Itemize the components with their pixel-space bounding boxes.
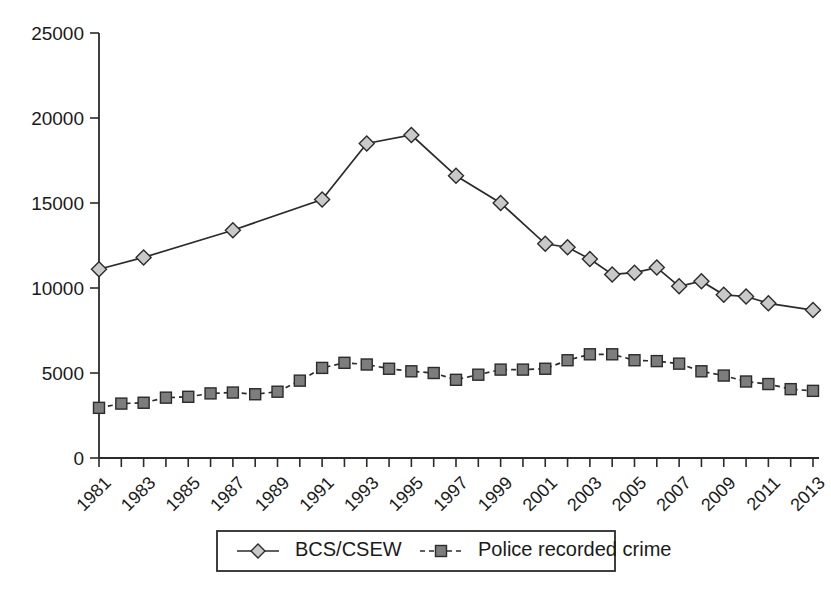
y-axis-tick-label: 0 [73,448,84,469]
data-point-marker [517,364,528,375]
chart-legend: BCS/CSEWPolice recorded crime [217,531,671,571]
y-axis-tick-label: 10000 [31,278,84,299]
data-point-marker [94,402,105,413]
data-point-marker [495,364,506,375]
data-point-marker [651,356,662,367]
legend-label-bcs-csew: BCS/CSEW [295,538,402,560]
data-point-marker [183,391,194,402]
data-point-marker [361,359,372,370]
data-point-marker [116,398,127,409]
y-axis-tick-label: 5000 [42,363,84,384]
data-point-marker [250,389,261,400]
data-point-marker [138,397,149,408]
data-point-marker [205,388,216,399]
data-point-marker [741,376,752,387]
data-point-marker [160,392,171,403]
data-point-marker [428,368,439,379]
square-marker-icon [436,546,447,557]
data-point-marker [674,358,685,369]
data-point-marker [607,349,618,360]
data-point-marker [718,370,729,381]
data-point-marker [785,384,796,395]
y-axis-tick-label: 25000 [31,23,84,44]
data-point-marker [808,385,819,396]
data-point-marker [272,386,283,397]
data-point-marker [473,369,484,380]
data-point-marker [696,366,707,377]
data-point-marker [763,379,774,390]
data-point-marker [384,363,395,374]
chart-container: 0500010000150002000025000 19811983198519… [0,0,831,599]
y-axis-tick-label: 20000 [31,108,84,129]
data-point-marker [451,374,462,385]
data-point-marker [227,387,238,398]
data-point-marker [562,355,573,366]
line-chart: 0500010000150002000025000 19811983198519… [0,0,831,599]
data-point-marker [339,357,350,368]
y-axis-tick-label: 15000 [31,193,84,214]
legend-label-police-recorded-crime: Police recorded crime [478,538,671,560]
data-point-marker [629,355,640,366]
data-point-marker [540,363,551,374]
data-point-marker [294,375,305,386]
data-point-marker [317,362,328,373]
data-point-marker [584,349,595,360]
data-point-marker [406,366,417,377]
